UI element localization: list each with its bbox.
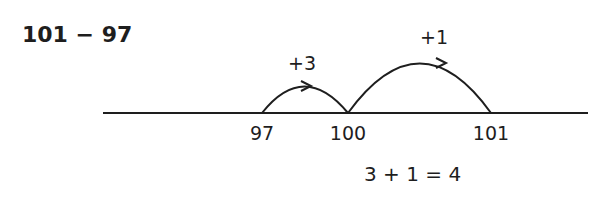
jump-label-1: +3 [288,52,316,74]
jump-label-2: +1 [420,26,448,48]
tick-label-101: 101 [473,122,509,144]
arrowhead-2-icon [436,58,446,68]
tick-label-100: 100 [330,122,366,144]
number-line-diagram: +3 +1 97 100 101 [0,0,593,205]
tick-label-97: 97 [250,122,274,144]
jump-arc-2 [348,64,491,114]
result-equation: 3 + 1 = 4 [364,162,461,186]
jump-arc-1 [262,87,348,114]
